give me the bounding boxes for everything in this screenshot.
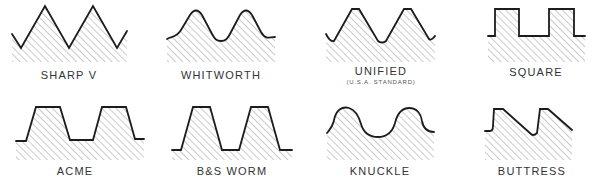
whitworth-hatch <box>167 11 275 63</box>
thread-bs-worm: B&S WORM <box>172 107 292 177</box>
label-unified: UNIFIED <box>355 65 407 77</box>
thread-unified: UNIFIED (U.S.A. STANDARD) <box>326 9 435 85</box>
thread-whitworth: WHITWORTH <box>167 11 275 82</box>
label-whitworth: WHITWORTH <box>181 69 261 81</box>
thread-forms-diagram: SHARP V WHITWORTH UNIFIED (U.S.A. STANDA… <box>0 0 595 192</box>
thread-knuckle: KNUCKLE <box>327 108 434 178</box>
sublabel-unified: (U.S.A. STANDARD) <box>346 79 415 85</box>
thread-acme: ACME <box>16 107 144 177</box>
buttress-hatch <box>485 109 572 160</box>
label-bs-worm: B&S WORM <box>197 165 268 177</box>
thread-square: SQUARE <box>488 9 585 78</box>
knuckle-hatch <box>327 108 434 161</box>
thread-buttress: BUTTRESS <box>485 109 572 177</box>
label-buttress: BUTTRESS <box>498 165 566 177</box>
label-square: SQUARE <box>509 66 563 78</box>
label-knuckle: KNUCKLE <box>350 165 410 177</box>
unified-hatch <box>326 9 435 62</box>
acme-hatch <box>16 107 144 160</box>
thread-sharp-v: SHARP V <box>12 6 127 81</box>
label-sharp-v: SHARP V <box>41 69 98 81</box>
label-acme: ACME <box>57 165 94 177</box>
